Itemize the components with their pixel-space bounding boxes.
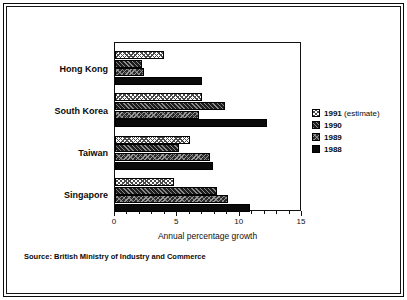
legend-item-1988: 1988: [312, 144, 404, 154]
x-tick-minor: [201, 211, 202, 214]
x-tick-minor: [289, 211, 290, 214]
bar-group: [115, 170, 300, 212]
bar: [115, 144, 179, 152]
legend-label-1991: 1991 (estimate): [324, 109, 380, 118]
bar: [115, 178, 174, 186]
x-tick-minor: [151, 211, 152, 214]
legend-item-1991: 1991 (estimate): [312, 108, 404, 118]
category-label-singapore: Singapore: [4, 190, 108, 200]
category-label-taiwan: Taiwan: [4, 148, 108, 158]
bar: [115, 119, 267, 127]
x-tick-minor: [264, 211, 265, 214]
category-axis-labels: Hong Kong South Korea Taiwan Singapore: [0, 42, 108, 211]
x-tick-label: 15: [297, 217, 306, 226]
x-tick-major: [114, 211, 115, 216]
bar: [115, 187, 217, 195]
bar-group: [115, 128, 300, 170]
category-label-hong-kong: Hong Kong: [4, 64, 108, 74]
bar: [115, 60, 142, 68]
bar: [115, 111, 199, 119]
x-tick-minor: [251, 211, 252, 214]
legend-label-1990: 1990: [324, 121, 342, 130]
x-tick-minor: [226, 211, 227, 214]
legend-swatch-1991-icon: [312, 109, 320, 117]
x-tick-label: 0: [112, 217, 116, 226]
x-tick-minor: [139, 211, 140, 214]
legend-item-1989: 1989: [312, 132, 404, 142]
x-tick-minor: [189, 211, 190, 214]
x-axis-title: Annual percentage growth: [114, 231, 301, 241]
bar: [115, 51, 164, 59]
legend-label-1988: 1988: [324, 145, 342, 154]
x-axis-ticks: [114, 211, 301, 217]
legend-swatch-1988-icon: [312, 145, 320, 153]
x-tick-minor: [126, 211, 127, 214]
bar-group: [115, 85, 300, 127]
legend: 1991 (estimate) 1990 1989 1988: [312, 108, 404, 156]
category-label-south-korea: South Korea: [4, 106, 108, 116]
source-note: Source: British Ministry of Industry and…: [24, 252, 206, 261]
bar: [115, 162, 213, 170]
x-tick-minor: [276, 211, 277, 214]
bar: [115, 136, 190, 144]
bar-group: [115, 43, 300, 85]
legend-swatch-1989-icon: [312, 133, 320, 141]
bar: [115, 93, 202, 101]
x-tick-label: 5: [174, 217, 178, 226]
x-tick-minor: [214, 211, 215, 214]
bar: [115, 77, 202, 85]
bar: [115, 102, 225, 110]
x-tick-minor: [164, 211, 165, 214]
x-tick-major: [301, 211, 302, 216]
x-tick-major: [239, 211, 240, 216]
legend-swatch-1990-icon: [312, 121, 320, 129]
bar: [115, 68, 144, 76]
bar-groups: [115, 43, 300, 210]
legend-item-1990: 1990: [312, 120, 404, 130]
chart-figure: Hong Kong South Korea Taiwan Singapore 0…: [0, 0, 407, 300]
x-tick-major: [176, 211, 177, 216]
plot-area: [114, 42, 301, 211]
bar: [115, 153, 210, 161]
bar: [115, 195, 228, 203]
x-tick-label: 10: [234, 217, 243, 226]
legend-label-1989: 1989: [324, 133, 342, 142]
